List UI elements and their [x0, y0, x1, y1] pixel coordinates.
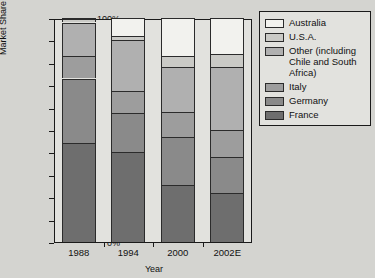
legend-label: U.S.A. [289, 31, 316, 42]
bar-segment [210, 193, 244, 242]
bar-segment [62, 143, 96, 242]
bar-segment [161, 18, 195, 56]
stacked-bar-chart: Market Share Year 0%10%20%30%40%50%60%70… [0, 0, 375, 278]
bar-segment [161, 185, 195, 242]
bar-segment [62, 56, 96, 78]
bar-segment [210, 157, 244, 193]
bar-segment [210, 18, 244, 54]
x-tick-mark [104, 243, 105, 247]
bar-1988 [62, 20, 96, 242]
legend-label: Italy [289, 81, 306, 92]
legend-label: Other (including Chile and South Africa) [289, 45, 366, 78]
legend-label: Australia [289, 17, 326, 28]
x-axis-title: Year [54, 264, 254, 274]
bar-2002E [210, 20, 244, 242]
bar-segment [161, 137, 195, 185]
bar-segment [111, 18, 145, 36]
legend-item[interactable]: Italy [265, 81, 366, 92]
bar-segment [161, 67, 195, 112]
legend-item[interactable]: U.S.A. [265, 31, 366, 42]
legend-item[interactable]: Germany [265, 95, 366, 106]
legend-item[interactable]: Other (including Chile and South Africa) [265, 45, 366, 78]
bars-container [55, 20, 251, 242]
bar-segment [62, 23, 96, 57]
bar-2000 [161, 20, 195, 242]
x-tick-label-2002E: 2002E [197, 247, 257, 258]
legend-swatch-icon [265, 33, 284, 42]
x-tick-mark [203, 243, 204, 247]
legend-swatch-icon [265, 97, 284, 106]
bar-segment [161, 56, 195, 67]
bar-segment [111, 152, 145, 242]
bar-segment [111, 113, 145, 152]
legend-label: Germany [289, 95, 328, 106]
legend-item[interactable]: France [265, 109, 366, 120]
legend-swatch-icon [265, 111, 284, 120]
bar-segment [62, 19, 96, 22]
legend-swatch-icon [265, 83, 284, 92]
x-tick-mark [153, 243, 154, 247]
bar-segment [111, 36, 145, 40]
y-axis-title: Market Share [0, 0, 8, 88]
legend: AustraliaU.S.A.Other (including Chile an… [259, 11, 371, 126]
legend-swatch-icon [265, 19, 284, 28]
bar-segment [111, 91, 145, 113]
legend-item[interactable]: Australia [265, 17, 366, 28]
bar-segment [111, 40, 145, 90]
plot-area [54, 19, 252, 243]
bar-segment [210, 130, 244, 157]
bar-segment [62, 79, 96, 144]
bar-segment [161, 112, 195, 137]
legend-label: France [289, 109, 319, 120]
legend-swatch-icon [265, 47, 284, 56]
bar-segment [210, 67, 244, 130]
bar-segment [210, 54, 244, 67]
bar-1994 [111, 20, 145, 242]
y-tick-mark [49, 243, 54, 244]
bar-segment [62, 18, 96, 19]
